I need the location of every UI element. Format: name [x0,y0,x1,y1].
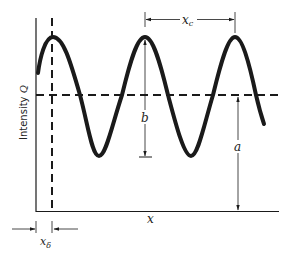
mean-level-annotation: a [234,97,241,210]
phase-shift-label: xδ [40,235,51,250]
amplitude-label: b [141,111,149,125]
x-axis-label: x [147,212,154,226]
intensity-waveform [38,37,264,156]
period-label: xc [182,13,194,28]
phase-shift-annotation: xδ [12,221,78,250]
period-annotation: xc [145,12,235,33]
waveform-diagram: xc b a x Intensity Q xδ [0,0,292,264]
amplitude-annotation: b [139,40,152,157]
mean-level-label: a [234,140,241,154]
y-axis-label: Intensity Q [18,85,29,140]
